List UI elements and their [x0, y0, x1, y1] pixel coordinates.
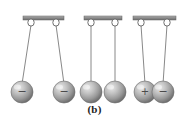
pendulum-sphere: [80, 81, 102, 103]
hook-ring: [112, 19, 118, 26]
hook-ring: [28, 19, 34, 26]
hook-ring: [88, 19, 94, 26]
sphere-negative: −: [152, 81, 174, 103]
sphere-highlight: [83, 84, 90, 89]
charge-sign-label: −: [158, 85, 167, 98]
figure-caption: (b): [0, 103, 189, 115]
hook-ring: [53, 19, 59, 26]
sphere-negative-right: −: [53, 81, 75, 103]
charge-sign-label: −: [59, 85, 68, 98]
hook-ring: [138, 19, 144, 26]
charge-sign-label: +: [141, 86, 149, 97]
hook-ring: [164, 19, 170, 26]
sphere-negative-left: −: [11, 81, 33, 103]
sphere-highlight: [107, 84, 114, 89]
sphere-neutral-right: [104, 81, 126, 103]
sphere-neutral-left: [80, 81, 102, 103]
charge-sign-label: −: [17, 85, 26, 98]
pendulum-sphere: [104, 81, 126, 103]
